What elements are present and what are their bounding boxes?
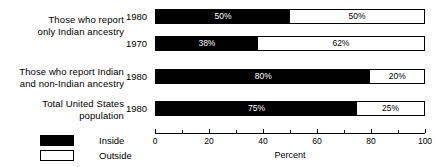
legend-item-outside: Outside — [40, 149, 132, 161]
x-axis-tick-major — [209, 129, 210, 133]
table-row: 80% 20% — [155, 69, 425, 84]
x-axis-tick-minor — [182, 130, 183, 133]
x-axis-tick-major — [155, 129, 156, 133]
legend-label-inside: Inside — [99, 135, 124, 146]
x-axis-tick-minor — [236, 130, 237, 133]
x-axis-tick-label: 60 — [312, 136, 321, 146]
table-row: 50% 50% — [155, 9, 425, 24]
table-row: 75% 25% — [155, 101, 425, 116]
x-axis-tick-minor — [344, 130, 345, 133]
bar-segment-inside: 50% — [156, 10, 290, 23]
x-axis-tick-major — [371, 129, 372, 133]
year-label-row-2: 1980 — [126, 71, 152, 82]
x-axis-tick-label: 80 — [366, 136, 375, 146]
x-axis-tick-major — [425, 129, 426, 133]
bar-segment-outside: 62% — [257, 37, 424, 50]
x-axis-tick-minor — [290, 130, 291, 133]
x-axis-tick-label: 0 — [153, 136, 158, 146]
legend-item-inside: Inside — [40, 134, 124, 146]
bar-segment-outside: 25% — [356, 102, 424, 115]
year-label-row-1: 1970 — [126, 38, 152, 49]
x-axis-tick-major — [263, 129, 264, 133]
group-label-indian-ancestry-only: Those who report only Indian ancestry — [0, 14, 124, 37]
legend-label-outside: Outside — [99, 150, 132, 161]
group-label-indian-and-non-indian-ancestry: Those who report Indian and non-Indian a… — [0, 66, 124, 89]
table-row: 38% 62% — [155, 36, 425, 51]
group-label-total-us-population: Total United States population — [0, 98, 124, 121]
bar-segment-inside: 80% — [156, 70, 370, 83]
year-label-row-0: 1980 — [126, 11, 152, 22]
x-axis-title: Percent — [155, 150, 425, 161]
legend-swatch-hollow-square-icon — [40, 150, 74, 161]
x-axis-tick-label: 100 — [418, 136, 432, 146]
x-axis-tick-label: 40 — [258, 136, 267, 146]
bar-segment-outside: 20% — [369, 70, 424, 83]
stacked-bar-chart: Those who report only Indian ancestry Th… — [0, 0, 437, 167]
x-axis-tick-minor — [398, 130, 399, 133]
bar-segment-inside: 75% — [156, 102, 357, 115]
x-axis-tick-major — [317, 129, 318, 133]
bar-segment-outside: 50% — [289, 10, 424, 23]
legend-swatch-filled-square-icon — [40, 135, 74, 146]
x-axis-line — [155, 133, 425, 134]
year-label-row-3: 1980 — [126, 103, 152, 114]
x-axis-tick-label: 20 — [204, 136, 213, 146]
bar-segment-inside: 38% — [156, 37, 258, 50]
